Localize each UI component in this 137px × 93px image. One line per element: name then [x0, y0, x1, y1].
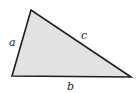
triangle-diagram: a c b — [0, 0, 137, 93]
side-label-c: c — [81, 29, 87, 42]
side-label-a: a — [9, 36, 16, 49]
triangle-shape — [12, 10, 131, 77]
side-label-b: b — [67, 80, 74, 93]
